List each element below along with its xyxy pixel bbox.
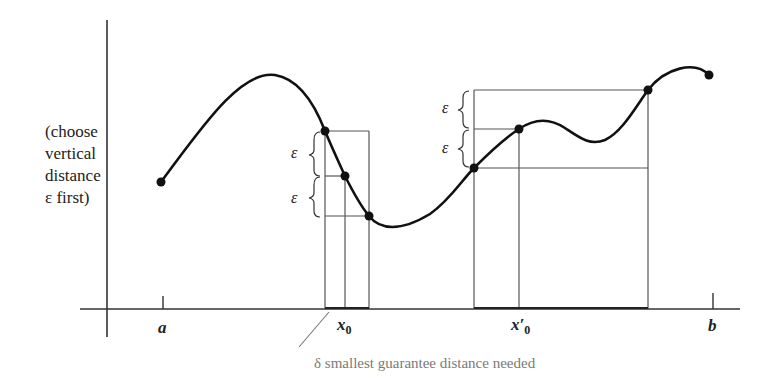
delta-caption: δ smallest guarantee distance needed <box>314 355 535 372</box>
x0-prime-subscript: 0 <box>524 323 530 337</box>
x0-subscript: 0 <box>346 323 352 337</box>
x0-main: x <box>337 315 346 334</box>
axis-label-x0-prime: x′0 <box>511 315 530 338</box>
epsilon-label-right-lower: ε <box>442 139 448 157</box>
axis-label-a: a <box>158 318 167 338</box>
point-left-lower <box>365 212 374 221</box>
point-right-lower <box>470 164 479 173</box>
caption-leader-line <box>299 312 329 347</box>
point-x0-prime <box>515 125 524 134</box>
epsilon-label-left-lower: ε <box>291 189 297 207</box>
side-note-line-4: ε first) <box>45 187 135 209</box>
side-note: (choose vertical distance ε first) <box>45 121 135 209</box>
point-left-upper <box>321 127 330 136</box>
x0-prime-main: x′ <box>511 315 524 334</box>
epsilon-label-left-upper: ε <box>291 144 297 162</box>
axis-label-b: b <box>708 316 717 336</box>
axis-label-x0: x0 <box>337 315 352 338</box>
point-start-a <box>157 178 166 187</box>
right-epsilon-box <box>474 90 648 309</box>
side-note-line-3: distance <box>45 165 135 187</box>
left-epsilon-box <box>325 131 369 309</box>
side-note-line-2: vertical <box>45 143 135 165</box>
function-curve <box>161 67 709 227</box>
marked-points <box>157 71 714 221</box>
epsilon-label-right-upper: ε <box>442 99 448 117</box>
point-end-b <box>705 71 714 80</box>
point-x0 <box>341 172 350 181</box>
side-note-line-1: (choose <box>45 121 135 143</box>
point-right-upper <box>644 86 653 95</box>
